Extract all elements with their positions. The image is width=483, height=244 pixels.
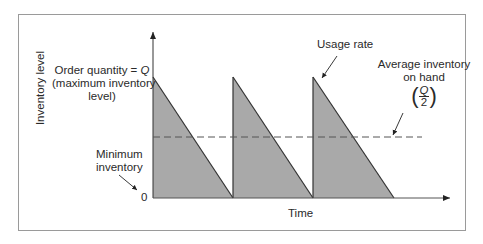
zero-label: 0 (141, 191, 147, 204)
q-over-2-fraction: (Q2) (411, 84, 437, 108)
order-quantity-line3: level) (88, 90, 115, 102)
average-inventory-label: Average inventory on hand (Q2) (366, 58, 482, 108)
order-quantity-prefix: Order quantity = (55, 64, 141, 76)
order-quantity-label: Order quantity = Q (maximum inventory le… (52, 64, 152, 103)
average-inventory-line1: Average inventory (378, 58, 470, 70)
y-axis-label: Inventory level (34, 51, 46, 125)
minimum-inventory-label: Minimum inventory (96, 148, 143, 174)
usage-rate-arrow (322, 56, 337, 78)
average-inventory-line2: on hand (403, 71, 445, 83)
x-axis-label: Time (288, 207, 313, 220)
order-quantity-line2: (maximum inventory (52, 77, 156, 89)
order-quantity-var: Q (141, 64, 150, 76)
usage-rate-label: Usage rate (317, 38, 373, 51)
minimum-inventory-line2: inventory (96, 161, 143, 173)
average-inventory-arrow (393, 113, 403, 135)
minimum-inventory-line1: Minimum (96, 148, 143, 160)
minimum-inventory-arrow (119, 175, 137, 190)
sawtooth-plot (0, 0, 483, 244)
